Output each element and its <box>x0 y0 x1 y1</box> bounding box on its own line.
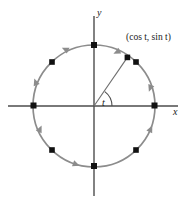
unit-circle-plot <box>0 0 187 201</box>
angle-arc <box>105 92 112 106</box>
arrowhead-icon <box>146 124 155 133</box>
marker-point <box>49 147 55 153</box>
marker-point <box>91 42 97 48</box>
angle-label-t: t <box>102 98 105 108</box>
point-label-cos-sin: (cos t, sin t) <box>126 33 171 43</box>
unit-circle-figure: y x t (cos t, sin t) <box>0 0 187 201</box>
marker-point <box>133 59 139 65</box>
x-axis-label: x <box>173 107 177 117</box>
y-axis-label: y <box>97 8 101 18</box>
marker-point <box>152 103 158 109</box>
marker-point <box>31 103 37 109</box>
marker-cos-sin-point <box>125 55 131 61</box>
marker-point <box>49 59 55 65</box>
marker-point <box>133 147 139 153</box>
marker-point <box>91 163 97 169</box>
